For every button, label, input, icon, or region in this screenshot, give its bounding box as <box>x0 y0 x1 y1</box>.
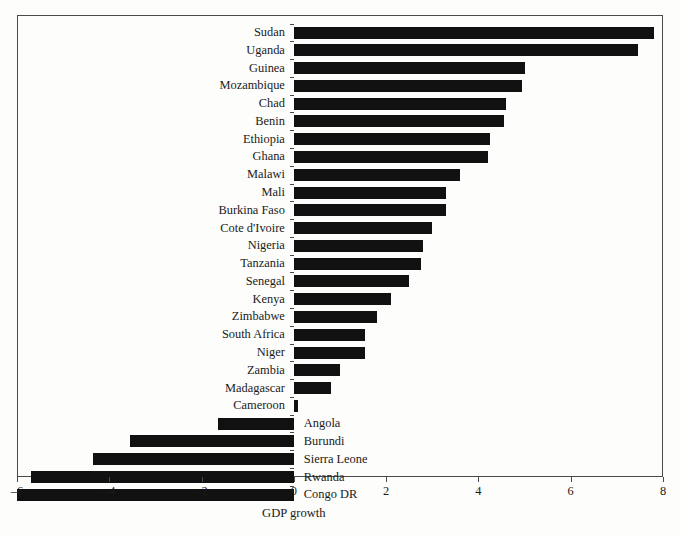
y-axis-tick <box>290 397 294 398</box>
x-axis-tick <box>386 477 387 482</box>
bar <box>294 115 504 127</box>
y-axis-tick <box>290 77 294 78</box>
bar <box>294 44 638 56</box>
x-axis-tick <box>17 477 18 482</box>
x-axis-tick-label: 4 <box>453 484 503 499</box>
bars-layer: SudanUgandaGuineaMozambiqueChadBeninEthi… <box>0 0 681 536</box>
y-axis-tick <box>290 148 294 149</box>
x-axis-tick-label: –4 <box>84 484 134 499</box>
category-label: Cote d'Ivoire <box>220 222 285 234</box>
bar <box>294 329 366 341</box>
category-label: Ghana <box>253 150 285 162</box>
category-label: Burundi <box>304 435 345 447</box>
y-axis-tick <box>290 130 294 131</box>
y-axis-tick <box>290 166 294 167</box>
bar <box>218 418 294 430</box>
bar <box>294 204 446 216</box>
y-axis-tick <box>290 468 294 469</box>
x-axis-tick <box>478 477 479 482</box>
y-axis-tick <box>290 59 294 60</box>
y-axis-tick <box>290 201 294 202</box>
category-label: Sudan <box>254 26 285 38</box>
bar <box>294 133 490 145</box>
category-label: Ethiopia <box>243 133 285 145</box>
y-axis-tick <box>290 326 294 327</box>
y-axis-tick <box>290 112 294 113</box>
x-axis-tick-label: 0 <box>269 484 319 499</box>
y-axis-tick <box>290 308 294 309</box>
x-axis-tick <box>109 477 110 482</box>
bar <box>294 275 409 287</box>
x-axis-tick-label: 2 <box>361 484 411 499</box>
bar <box>294 151 488 163</box>
x-axis-tick <box>202 477 203 482</box>
y-axis-tick <box>290 344 294 345</box>
category-label: Rwanda <box>304 471 345 483</box>
x-axis-tick-label: 8 <box>638 484 681 499</box>
category-label: Cameroon <box>233 399 285 411</box>
x-axis-title: GDP growth <box>234 506 354 521</box>
bar <box>294 169 460 181</box>
y-axis-tick <box>290 361 294 362</box>
category-label: Malawi <box>247 168 285 180</box>
bar <box>294 293 391 305</box>
x-axis-tick-label: –6 <box>0 484 42 499</box>
category-label: Angola <box>304 417 340 429</box>
bar <box>294 347 366 359</box>
x-axis-tick <box>294 477 295 482</box>
bar <box>130 435 294 447</box>
category-label: Niger <box>257 346 285 358</box>
bar <box>294 62 525 74</box>
category-label: Sierra Leone <box>304 453 368 465</box>
x-axis-tick-label: –2 <box>177 484 227 499</box>
category-label: Zambia <box>247 364 285 376</box>
bar <box>31 471 294 483</box>
y-axis-tick <box>290 450 294 451</box>
category-label: South Africa <box>222 328 285 340</box>
bar <box>294 222 432 234</box>
category-label: Mali <box>261 186 284 198</box>
bar <box>294 98 506 110</box>
y-axis-tick <box>290 272 294 273</box>
bar <box>294 27 654 39</box>
x-axis-tick <box>571 477 572 482</box>
category-label: Madagascar <box>225 382 285 394</box>
category-label: Guinea <box>249 62 285 74</box>
bar <box>294 400 299 412</box>
category-label: Burkina Faso <box>218 204 284 216</box>
bar <box>17 489 294 501</box>
category-label: Kenya <box>253 293 285 305</box>
bar <box>294 258 421 270</box>
y-axis-tick <box>290 184 294 185</box>
category-label: Chad <box>259 97 285 109</box>
bar <box>294 80 522 92</box>
x-axis-tick-label: 6 <box>546 484 596 499</box>
y-axis-tick <box>290 219 294 220</box>
y-axis-tick <box>290 290 294 291</box>
y-axis-tick <box>290 415 294 416</box>
bar <box>93 453 294 465</box>
bar <box>294 187 446 199</box>
category-label: Senegal <box>246 275 285 287</box>
bar <box>294 240 423 252</box>
category-label: Mozambique <box>219 79 284 91</box>
y-axis-tick <box>290 237 294 238</box>
bar <box>294 382 331 394</box>
y-axis-tick <box>290 95 294 96</box>
x-axis-tick <box>663 477 664 482</box>
y-axis-tick <box>290 41 294 42</box>
y-axis-tick <box>290 432 294 433</box>
chart-figure: SudanUgandaGuineaMozambiqueChadBeninEthi… <box>0 0 681 536</box>
category-label: Nigeria <box>248 239 285 251</box>
y-axis-tick <box>290 255 294 256</box>
category-label: Tanzania <box>240 257 285 269</box>
category-label: Zimbabwe <box>232 310 285 322</box>
y-axis-tick <box>290 379 294 380</box>
category-label: Uganda <box>246 44 285 56</box>
y-axis-tick <box>290 24 294 25</box>
category-label: Benin <box>255 115 285 127</box>
bar <box>294 311 377 323</box>
bar <box>294 364 340 376</box>
